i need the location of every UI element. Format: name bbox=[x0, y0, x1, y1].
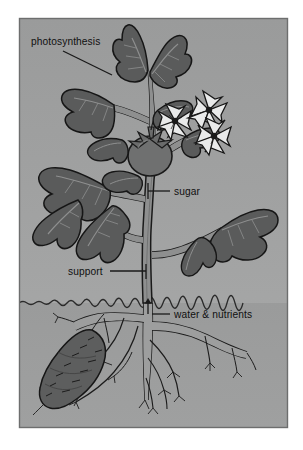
panel-content: photosynthesis sugar support water & nut… bbox=[19, 18, 288, 428]
leaf-shape bbox=[102, 171, 142, 194]
label-sugar: sugar bbox=[174, 186, 200, 197]
label-water-nutrients: water & nutrients bbox=[173, 309, 252, 320]
leaf bbox=[102, 171, 142, 194]
plant-diagram-figure: photosynthesis sugar support water & nut… bbox=[0, 0, 303, 450]
label-support: support bbox=[68, 266, 103, 277]
label-photosynthesis: photosynthesis bbox=[31, 36, 100, 47]
